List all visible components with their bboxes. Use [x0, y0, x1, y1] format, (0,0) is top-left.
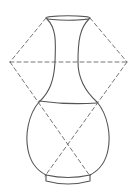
- vase-neck-left: [39, 19, 55, 102]
- vase-shoulder-curve: [39, 101, 97, 104]
- dashed-upper-left-line: [10, 18, 46, 62]
- vase-body-left: [27, 102, 46, 175]
- dashed-upper-right-line: [90, 18, 127, 62]
- vase-mouth-ellipse: [46, 16, 90, 20]
- dashed-cross-line-b: [45, 62, 127, 176]
- vase-base-top: [46, 175, 90, 178]
- vase-neck-right: [78, 19, 97, 102]
- dashed-cross-line-a: [10, 62, 90, 176]
- diagram-canvas: [0, 0, 136, 195]
- vase-diagram: [0, 0, 136, 195]
- vase-body-right: [90, 102, 109, 175]
